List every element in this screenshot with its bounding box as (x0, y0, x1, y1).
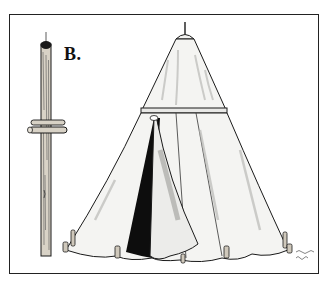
figure-label: B. (64, 44, 82, 65)
tent-pole (28, 32, 68, 256)
artist-signature (296, 251, 314, 260)
bell-tent (63, 22, 292, 263)
tent-illustration (0, 0, 331, 284)
